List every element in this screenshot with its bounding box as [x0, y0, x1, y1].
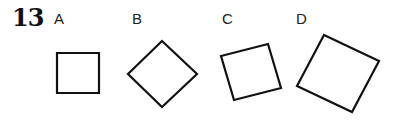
option-c-tilted-square: [221, 44, 281, 100]
option-d-tilted-square: [297, 35, 379, 112]
option-b-diamond: [128, 41, 197, 107]
shapes-diagram: [0, 0, 402, 121]
option-a-square: [57, 53, 99, 93]
